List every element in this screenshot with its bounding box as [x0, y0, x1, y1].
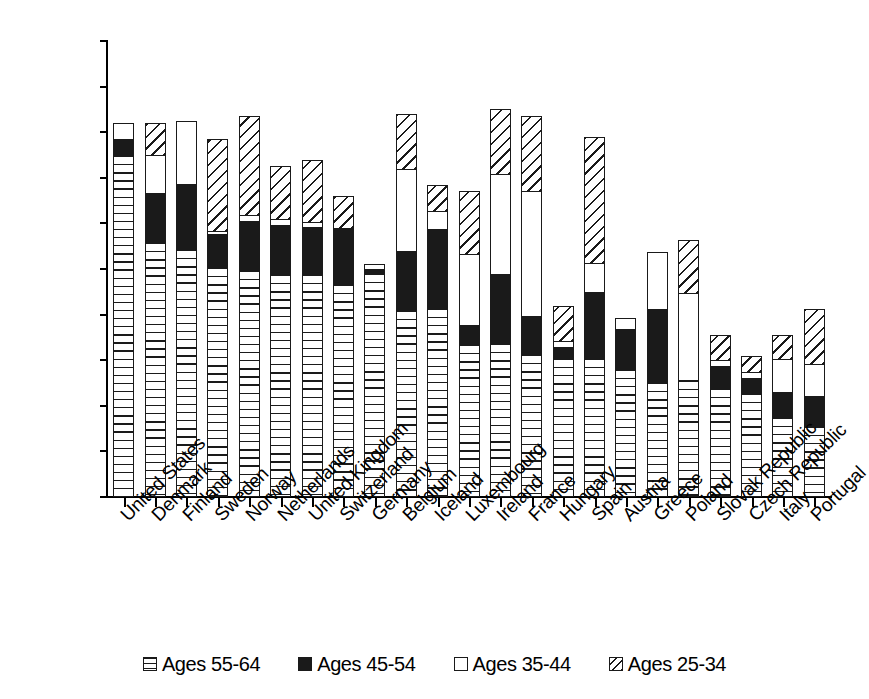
bar-segment-ages-35-44 — [364, 264, 385, 269]
legend-item-ages-35-44[interactable]: Ages 35-44 — [454, 654, 571, 674]
bar-segment-ages-25-34 — [741, 356, 762, 372]
bar-segment-ages-45-54 — [459, 325, 480, 344]
bar-segment-ages-45-54 — [239, 221, 260, 270]
bar-segment-ages-45-54 — [710, 366, 731, 389]
bar-segment-ages-25-34 — [270, 166, 291, 219]
bar-segment-ages-35-44 — [584, 263, 605, 292]
legend-label: Ages 25-34 — [628, 654, 726, 674]
bar-poland — [678, 240, 699, 497]
legend-item-ages-55-64[interactable]: Ages 55-64 — [143, 654, 260, 674]
bar-united-kingdom — [302, 160, 323, 497]
chart-legend: Ages 55-64Ages 45-54Ages 35-44Ages 25-34 — [0, 648, 869, 680]
legend-label: Ages 35-44 — [473, 654, 571, 674]
bar-united-states — [113, 123, 134, 497]
bar-segment-ages-35-44 — [396, 169, 417, 251]
bar-segment-ages-35-44 — [678, 293, 699, 381]
bar-segment-ages-25-34 — [772, 335, 793, 360]
bar-hungary — [553, 306, 574, 497]
bar-segment-ages-25-34 — [678, 240, 699, 293]
bar-segment-ages-45-54 — [364, 269, 385, 273]
bar-segment-ages-45-54 — [584, 292, 605, 359]
bar-segment-ages-45-54 — [207, 234, 228, 267]
bar-norway — [239, 116, 260, 497]
bar-segment-ages-35-44 — [207, 231, 228, 235]
legend-swatch-icon — [454, 657, 468, 671]
bar-segment-ages-25-34 — [239, 116, 260, 215]
bar-segment-ages-25-34 — [521, 116, 542, 191]
legend-label: Ages 55-64 — [162, 654, 260, 674]
y-axis-ticks: 05101520253035404550 — [0, 0, 106, 498]
bar-spain — [584, 137, 605, 497]
bar-austria — [615, 318, 636, 497]
bar-segment-ages-25-34 — [396, 114, 417, 169]
bar-segment-ages-55-64 — [145, 242, 166, 497]
bar-segment-ages-25-34 — [710, 335, 731, 361]
bar-segment-ages-45-54 — [741, 378, 762, 394]
bar-segment-ages-35-44 — [647, 252, 668, 309]
bar-segment-ages-45-54 — [490, 274, 511, 342]
bar-segment-ages-35-44 — [615, 318, 636, 329]
bar-iceland — [427, 185, 448, 497]
stacked-bar-chart: 05101520253035404550 United StatesDenmar… — [0, 0, 869, 699]
bar-segment-ages-45-54 — [145, 193, 166, 241]
bar-segment-ages-45-54 — [113, 139, 134, 155]
bar-segment-ages-35-44 — [239, 215, 260, 220]
bar-segment-ages-45-54 — [333, 228, 354, 284]
bar-segment-ages-45-54 — [615, 329, 636, 369]
legend-swatch-icon — [298, 657, 312, 671]
bar-segment-ages-35-44 — [490, 174, 511, 274]
bar-segment-ages-45-54 — [521, 316, 542, 353]
bar-segment-ages-55-64 — [207, 267, 228, 497]
bar-segment-ages-45-54 — [396, 251, 417, 310]
bar-segment-ages-35-44 — [302, 222, 323, 227]
bar-segment-ages-25-34 — [302, 160, 323, 222]
bar-greece — [647, 252, 668, 497]
bar-segment-ages-35-44 — [145, 155, 166, 193]
bar-segment-ages-45-54 — [302, 227, 323, 274]
legend-label: Ages 45-54 — [317, 654, 415, 674]
bar-segment-ages-25-34 — [584, 137, 605, 263]
bar-segment-ages-45-54 — [553, 347, 574, 359]
bar-segment-ages-35-44 — [427, 211, 448, 229]
bar-segment-ages-35-44 — [521, 191, 542, 317]
bar-segment-ages-35-44 — [772, 359, 793, 392]
plot-area — [108, 41, 830, 497]
bar-segment-ages-45-54 — [647, 309, 668, 382]
bar-segment-ages-35-44 — [804, 364, 825, 396]
bar-segment-ages-35-44 — [176, 121, 197, 184]
bar-netherlands — [270, 166, 291, 497]
bar-segment-ages-45-54 — [427, 229, 448, 308]
bar-luxembourg — [459, 191, 480, 497]
bar-segment-ages-55-64 — [113, 155, 134, 497]
bar-ireland — [490, 109, 511, 497]
x-axis-labels: United StatesDenmarkFinlandSwedenNorwayN… — [0, 505, 869, 645]
bar-segment-ages-25-34 — [145, 123, 166, 155]
bar-segment-ages-35-44 — [741, 372, 762, 377]
bar-segment-ages-25-34 — [804, 309, 825, 364]
bar-segment-ages-45-54 — [772, 392, 793, 417]
bar-segment-ages-35-44 — [553, 341, 574, 346]
bar-segment-ages-35-44 — [113, 123, 134, 139]
legend-item-ages-45-54[interactable]: Ages 45-54 — [298, 654, 415, 674]
bar-segment-ages-25-34 — [207, 139, 228, 231]
bar-segment-ages-25-34 — [459, 191, 480, 255]
bar-segment-ages-25-34 — [490, 109, 511, 174]
bar-segment-ages-25-34 — [333, 196, 354, 228]
legend-swatch-icon — [143, 657, 157, 671]
bar-segment-ages-25-34 — [427, 185, 448, 211]
bar-sweden — [207, 139, 228, 497]
bar-segment-ages-55-64 — [270, 274, 291, 497]
bar-segment-ages-45-54 — [176, 184, 197, 249]
bar-segment-ages-35-44 — [270, 219, 291, 225]
legend-swatch-icon — [609, 657, 623, 671]
legend-item-ages-25-34[interactable]: Ages 25-34 — [609, 654, 726, 674]
bar-segment-ages-25-34 — [553, 306, 574, 342]
bar-segment-ages-35-44 — [459, 254, 480, 324]
bar-denmark — [145, 123, 166, 497]
bar-segment-ages-35-44 — [710, 360, 731, 365]
bar-segment-ages-45-54 — [270, 225, 291, 273]
